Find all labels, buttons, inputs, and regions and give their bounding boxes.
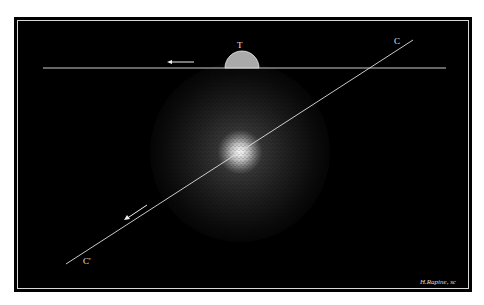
engraver-signature: H.Rapine, sc — [420, 278, 456, 286]
motion-arrow-bottom-icon — [124, 205, 147, 220]
motion-arrow-top-icon — [167, 60, 194, 64]
earth-hemisphere — [225, 51, 259, 68]
axis-top-label: C — [394, 36, 400, 46]
earth-label: T — [237, 40, 243, 50]
axis-bottom-label: C' — [83, 256, 91, 266]
